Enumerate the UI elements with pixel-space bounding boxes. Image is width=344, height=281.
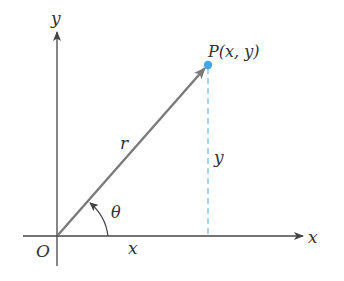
radius-vector <box>58 68 205 235</box>
radius-label: r <box>120 133 129 153</box>
y-axis-label: y <box>50 8 61 28</box>
polar-diagram: y x O P(x, y) r y x θ <box>0 0 344 281</box>
vertical-length-label: y <box>213 147 224 167</box>
angle-label: θ <box>111 203 121 222</box>
x-axis-label: x <box>308 227 318 247</box>
point-label: P(x, y) <box>207 42 259 61</box>
horizontal-length-label: x <box>128 238 138 258</box>
angle-arc <box>90 203 108 236</box>
point-p <box>204 61 212 69</box>
origin-label: O <box>36 241 50 261</box>
